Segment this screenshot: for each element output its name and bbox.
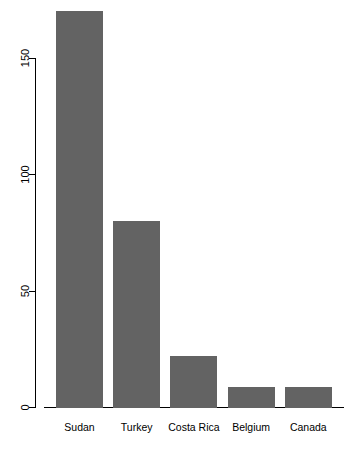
plot-area: 050100150 SudanTurkeyCosta RicaBelgiumCa… (0, 0, 364, 454)
bar (228, 387, 275, 408)
bar (113, 221, 160, 407)
chart-canvas: 050100150 SudanTurkeyCosta RicaBelgiumCa… (0, 0, 364, 454)
x-axis-category-label: Sudan (64, 421, 95, 433)
bar (285, 387, 332, 408)
bar-chart-figure: 050100150 SudanTurkeyCosta RicaBelgiumCa… (0, 0, 364, 454)
bar (56, 11, 103, 407)
y-axis-tick-label: 150 (19, 49, 31, 67)
y-axis-tick-label: 0 (19, 404, 31, 410)
bar (170, 356, 217, 407)
x-axis-category-label: Belgium (232, 421, 270, 433)
x-axis-category-label: Turkey (121, 421, 153, 433)
y-axis-tick-label: 100 (19, 165, 31, 183)
x-axis-category-label: Costa Rica (168, 421, 220, 433)
category-labels-group: SudanTurkeyCosta RicaBelgiumCanada (64, 421, 327, 433)
x-axis-category-label: Canada (290, 421, 327, 433)
y-axis-group: 050100150 (19, 49, 36, 411)
bars-group (56, 11, 332, 407)
y-axis-tick-label: 50 (19, 285, 31, 297)
y-axis-ticks: 050100150 (19, 49, 36, 411)
